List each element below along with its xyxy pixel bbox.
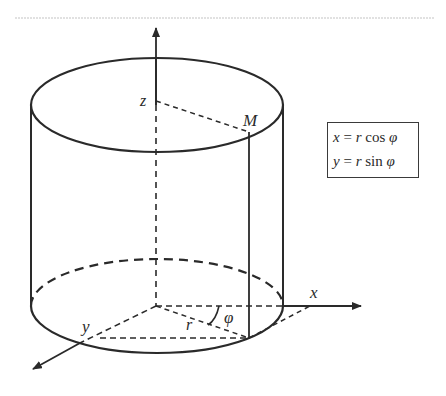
formula-y-eq: =	[340, 153, 356, 169]
formula-x-eq: =	[340, 129, 356, 145]
angle-phi-arc	[208, 306, 219, 325]
formula-y-phi: φ	[387, 153, 395, 169]
cylinder-top-ellipse	[31, 58, 283, 152]
diagram-canvas: z M x y r φ	[0, 0, 446, 396]
y-axis-solid	[33, 343, 80, 369]
cylinder-diagram: z M x y r φ x = r cos φ y = r sin φ	[0, 0, 446, 396]
point-m-label: M	[242, 111, 258, 130]
formula-y: y = r sin φ	[333, 149, 414, 173]
formula-x: x = r cos φ	[333, 125, 414, 149]
angle-phi-label: φ	[224, 308, 233, 327]
radius-label: r	[186, 316, 193, 333]
formula-x-lhs: x	[333, 129, 340, 145]
formula-y-fn: sin	[361, 153, 386, 169]
z-to-m-dashed	[156, 101, 249, 132]
cylinder-bottom-front-arc	[31, 306, 283, 353]
formula-box: x = r cos φ y = r sin φ	[327, 122, 419, 178]
y-axis-label: y	[80, 317, 90, 336]
radius-dashed	[156, 306, 249, 338]
z-axis-label: z	[139, 92, 147, 109]
x-axis-label: x	[309, 283, 318, 302]
formula-y-lhs: y	[333, 153, 340, 169]
cylinder-bottom-back-arc	[31, 259, 283, 306]
formula-x-fn: cos	[361, 129, 389, 145]
formula-x-phi: φ	[389, 129, 397, 145]
projection-to-x-dashed	[249, 306, 310, 338]
